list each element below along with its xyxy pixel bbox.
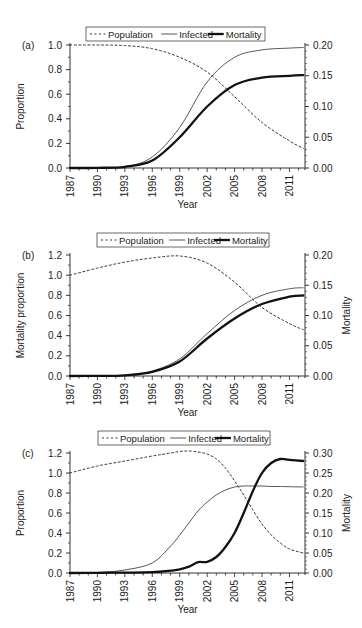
legend-label-mortality: Mortality bbox=[226, 29, 262, 40]
legend: PopulationInfectedMortality bbox=[86, 27, 265, 41]
legend: PopulationInfectedMortality bbox=[98, 431, 270, 445]
x-axis-label: Year bbox=[177, 407, 198, 418]
right-tick-label: 0.25 bbox=[313, 468, 333, 479]
legend: PopulationInfectedMortality bbox=[97, 233, 269, 247]
legend-label-population: Population bbox=[120, 433, 165, 444]
left-tick-label: 0.4 bbox=[48, 113, 62, 124]
series-mortality bbox=[70, 75, 303, 168]
x-tick-label: 2011 bbox=[284, 383, 295, 405]
left-tick-label: 1.2 bbox=[48, 448, 62, 459]
left-tick-label: 0.4 bbox=[48, 330, 62, 341]
left-tick-label: 0.6 bbox=[48, 508, 62, 519]
x-tick-label: 2008 bbox=[257, 383, 268, 406]
left-tick-label: 1.0 bbox=[48, 270, 62, 281]
x-tick-label: 1996 bbox=[147, 383, 158, 406]
x-tick-label: 1999 bbox=[174, 383, 185, 406]
right-tick-label: 0.20 bbox=[313, 40, 333, 51]
left-tick-label: 0.0 bbox=[48, 371, 62, 382]
panel-label: (c) bbox=[22, 448, 34, 459]
legend-label-population: Population bbox=[108, 29, 153, 40]
x-tick-label: 1996 bbox=[147, 580, 158, 603]
right-tick-label: 0.15 bbox=[313, 280, 333, 291]
series-mortality bbox=[70, 296, 303, 377]
x-tick-label: 1987 bbox=[65, 175, 76, 198]
x-tick-label: 1990 bbox=[92, 580, 103, 603]
y-axis-label-left: Proportion bbox=[15, 490, 26, 536]
y-axis-label-left: Proportion bbox=[15, 83, 26, 129]
x-tick-label: 2002 bbox=[202, 580, 213, 603]
left-tick-label: 0.2 bbox=[48, 548, 62, 559]
x-tick-label: 2005 bbox=[229, 175, 240, 198]
right-tick-label: 0.05 bbox=[313, 132, 333, 143]
x-axis-label: Year bbox=[177, 604, 198, 615]
legend-label-mortality: Mortality bbox=[232, 235, 268, 246]
left-tick-label: 0.8 bbox=[48, 64, 62, 75]
right-tick-label: 0.15 bbox=[313, 70, 333, 81]
x-tick-label: 2005 bbox=[229, 580, 240, 603]
x-tick-label: 1987 bbox=[65, 580, 76, 603]
right-tick-label: 0.15 bbox=[313, 508, 333, 519]
left-tick-label: 0.8 bbox=[48, 290, 62, 301]
panel-label: (b) bbox=[22, 250, 34, 261]
x-tick-label: 1993 bbox=[119, 580, 130, 603]
left-tick-label: 0.0 bbox=[48, 163, 62, 174]
series-population bbox=[70, 256, 303, 330]
figure: (a)0.00.20.40.60.81.0Proportion0.000.050… bbox=[0, 0, 362, 628]
right-tick-label: 0.00 bbox=[313, 371, 333, 382]
series-population bbox=[70, 45, 303, 148]
x-tick-label: 1993 bbox=[119, 383, 130, 406]
x-tick-label: 2002 bbox=[202, 383, 213, 406]
right-tick-label: 0.05 bbox=[313, 340, 333, 351]
left-tick-label: 0.2 bbox=[48, 350, 62, 361]
x-tick-label: 2011 bbox=[284, 580, 295, 602]
right-tick-label: 0.20 bbox=[313, 250, 333, 261]
panel-a: (a)0.00.20.40.60.81.0Proportion0.000.050… bbox=[15, 27, 333, 210]
x-tick-label: 2002 bbox=[202, 175, 213, 198]
left-tick-label: 0.4 bbox=[48, 528, 62, 539]
legend-label-mortality: Mortality bbox=[233, 433, 269, 444]
x-axis-label: Year bbox=[177, 199, 198, 210]
x-tick-label: 2011 bbox=[284, 175, 295, 197]
x-tick-label: 1990 bbox=[92, 175, 103, 198]
x-tick-label: 1999 bbox=[174, 580, 185, 603]
legend-label-population: Population bbox=[119, 235, 164, 246]
left-tick-label: 0.6 bbox=[48, 310, 62, 321]
left-tick-label: 0.0 bbox=[48, 568, 62, 579]
left-tick-label: 1.0 bbox=[48, 40, 62, 51]
left-tick-label: 1.0 bbox=[48, 468, 62, 479]
left-tick-label: 0.8 bbox=[48, 488, 62, 499]
x-tick-label: 2008 bbox=[257, 580, 268, 603]
right-tick-label: 0.00 bbox=[313, 163, 333, 174]
series-infected bbox=[70, 48, 303, 169]
right-tick-label: 0.10 bbox=[313, 101, 333, 112]
x-tick-label: 1987 bbox=[65, 383, 76, 406]
x-tick-label: 2008 bbox=[257, 175, 268, 198]
x-tick-label: 1990 bbox=[92, 383, 103, 406]
right-tick-label: 0.10 bbox=[313, 310, 333, 321]
left-tick-label: 0.6 bbox=[48, 89, 62, 100]
right-tick-label: 0.00 bbox=[313, 568, 333, 579]
right-tick-label: 0.10 bbox=[313, 528, 333, 539]
x-tick-label: 1996 bbox=[147, 175, 158, 198]
x-tick-label: 1993 bbox=[119, 175, 130, 198]
y-axis-label-right: Mortality bbox=[341, 297, 352, 335]
left-tick-label: 0.2 bbox=[48, 138, 62, 149]
right-tick-label: 0.30 bbox=[313, 448, 333, 459]
series-infected bbox=[70, 486, 303, 573]
panel-c: (c)0.00.20.40.60.81.01.2Proportion0.000.… bbox=[15, 431, 352, 615]
y-axis-label-left: Mortality proportion bbox=[15, 273, 26, 359]
x-tick-label: 2005 bbox=[229, 383, 240, 406]
x-tick-label: 1999 bbox=[174, 175, 185, 198]
y-axis-label-right: Mortality bbox=[341, 494, 352, 532]
left-tick-label: 1.2 bbox=[48, 250, 62, 261]
panel-b: (b)0.00.20.40.60.81.01.2Mortality propor… bbox=[15, 233, 352, 418]
panel-label: (a) bbox=[22, 40, 34, 51]
right-tick-label: 0.05 bbox=[313, 548, 333, 559]
series-mortality bbox=[70, 459, 303, 573]
right-tick-label: 0.20 bbox=[313, 488, 333, 499]
